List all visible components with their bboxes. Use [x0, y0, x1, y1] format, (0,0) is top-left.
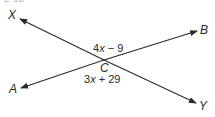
ray-CX-arrow [20, 19, 104, 60]
intersecting-lines-diagram [0, 0, 215, 117]
angle-lower-constant: + 29 [96, 73, 121, 85]
point-label-X: X [8, 9, 16, 21]
angle-label-lower: 3x + 29 [84, 74, 120, 85]
point-label-B: B [200, 24, 208, 36]
angle-upper-constant: − 9 [105, 42, 124, 54]
point-label-A: A [9, 83, 17, 95]
angle-label-upper: 4x − 9 [93, 43, 123, 54]
point-label-Y: Y [199, 100, 207, 112]
